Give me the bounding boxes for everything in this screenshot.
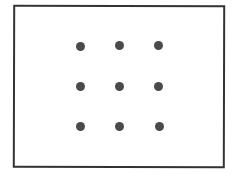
grid-dot xyxy=(155,122,164,131)
grid-dot xyxy=(115,122,124,131)
grid-dot xyxy=(154,41,163,50)
grid-dot xyxy=(115,41,124,50)
grid-dot xyxy=(76,82,85,91)
grid-dot xyxy=(76,122,85,131)
grid-dot xyxy=(76,42,85,51)
grid-dot xyxy=(115,82,124,91)
grid-dot xyxy=(154,82,163,91)
